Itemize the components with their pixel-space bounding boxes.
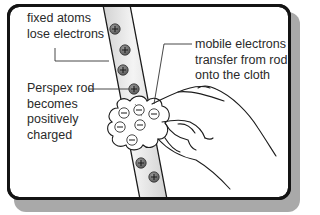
negative-charge-icon xyxy=(134,105,144,115)
positive-charge-icon xyxy=(149,172,159,182)
label-line: becomes xyxy=(27,97,94,113)
label-line: onto the cloth xyxy=(195,68,287,84)
label-line: positively xyxy=(27,112,94,128)
label-line: transfer from rod xyxy=(195,53,287,69)
positive-charge-icon xyxy=(120,45,130,55)
negative-charge-icon xyxy=(135,120,145,130)
hand xyxy=(152,86,276,189)
label-line: Perspex rod xyxy=(27,81,94,97)
negative-charge-icon xyxy=(119,108,129,118)
positive-charge-icon xyxy=(129,84,139,94)
negative-charge-icon xyxy=(149,109,159,119)
label-line: fixed atoms xyxy=(27,11,104,27)
negative-charge-icon xyxy=(127,135,137,145)
positive-charge-icon xyxy=(136,158,146,168)
leader-fixed-atoms xyxy=(55,48,109,61)
label-line: mobile electrons xyxy=(195,37,287,53)
label-line: charged xyxy=(27,128,94,144)
label-line: lose electrons xyxy=(27,27,104,43)
label-perspex-rod: Perspex rod becomes positively charged xyxy=(27,81,94,143)
positive-charge-icon xyxy=(110,24,120,34)
label-fixed-atoms: fixed atoms lose electrons xyxy=(27,11,104,42)
negative-charge-icon xyxy=(115,122,125,132)
positive-charge-icon xyxy=(118,65,128,75)
label-mobile-electrons: mobile electrons transfer from rod onto … xyxy=(195,37,287,84)
leader-mobile-electrons xyxy=(154,44,192,104)
